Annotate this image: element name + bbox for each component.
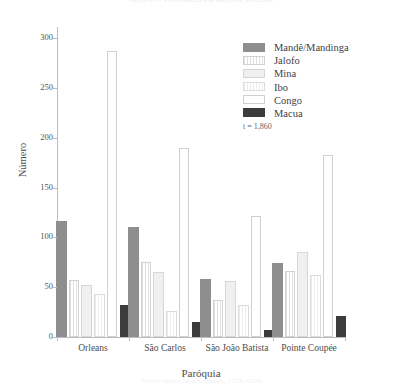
y-axis-tick-labels: 050100150200250300 xyxy=(9,27,53,338)
legend-label: Congo xyxy=(274,94,302,107)
bar xyxy=(225,281,236,337)
cut-off-title: Gráfico — Procedência dos escravos afric… xyxy=(0,0,402,5)
y-tick-mark xyxy=(53,287,57,288)
bar xyxy=(128,227,139,337)
x-tick-mark xyxy=(345,337,346,341)
bar xyxy=(56,221,67,337)
legend-label: Macua xyxy=(274,107,303,120)
bar xyxy=(141,262,152,337)
legend-item: Mandê/Mandinga xyxy=(243,41,399,54)
legend-swatch-icon xyxy=(243,108,265,117)
bar xyxy=(166,311,177,337)
x-tick-label: Orleans xyxy=(78,343,108,353)
bar xyxy=(153,272,164,337)
x-axis-tick-labels: OrleansSão CarlosSão João BatistaPointe … xyxy=(57,343,345,361)
legend-swatch-icon xyxy=(243,82,265,91)
x-tick-label: Pointe Coupée xyxy=(281,343,337,353)
bar xyxy=(272,263,283,337)
bar xyxy=(200,279,211,337)
bar xyxy=(213,300,224,337)
x-tick-label: São Carlos xyxy=(144,343,185,353)
bar xyxy=(297,252,308,337)
legend-item: Mina xyxy=(243,67,399,80)
bar xyxy=(310,275,321,337)
bar xyxy=(323,155,334,337)
bar xyxy=(69,280,80,337)
total-count-annotation: t = 1,860 xyxy=(243,122,272,131)
y-tick-mark xyxy=(53,138,57,139)
legend-label: Mandê/Mandinga xyxy=(274,41,349,54)
legend-swatch-icon xyxy=(243,95,265,104)
y-tick-label: 100 xyxy=(9,232,53,241)
y-axis-title: Número xyxy=(17,143,28,177)
x-tick-mark xyxy=(273,337,274,341)
bar xyxy=(81,285,92,337)
legend-swatch-icon xyxy=(243,69,265,78)
legend-swatch-icon xyxy=(243,43,265,52)
y-tick-mark xyxy=(53,188,57,189)
y-tick-label: 50 xyxy=(9,282,53,291)
legend-item: Congo xyxy=(243,94,399,107)
bar xyxy=(285,271,296,337)
y-tick-mark xyxy=(53,88,57,89)
y-tick-label: 250 xyxy=(9,83,53,92)
bar xyxy=(179,148,190,337)
legend-item: Macua xyxy=(243,107,399,120)
legend-label: Jalofo xyxy=(274,54,300,67)
bar xyxy=(336,316,347,337)
bar xyxy=(107,51,118,337)
y-tick-label: 150 xyxy=(9,183,53,192)
legend: Mandê/MandingaJalofoMinaIboCongoMacuat =… xyxy=(243,41,399,120)
legend-swatch-icon xyxy=(243,56,265,65)
y-tick-label: 0 xyxy=(9,332,53,341)
y-tick-mark xyxy=(53,38,57,39)
x-tick-mark xyxy=(129,337,130,341)
cut-off-footer: Fonte: registros paroquiais, 1718-1820 xyxy=(0,377,402,386)
bar xyxy=(251,216,262,337)
legend-item: Jalofo xyxy=(243,54,399,67)
legend-label: Mina xyxy=(274,67,296,80)
legend-label: Ibo xyxy=(274,81,288,94)
x-tick-mark xyxy=(201,337,202,341)
legend-item: Ibo xyxy=(243,81,399,94)
bar xyxy=(94,294,105,337)
x-tick-label: São João Batista xyxy=(206,343,269,353)
bar-chart-figure: Gráfico — Procedência dos escravos afric… xyxy=(0,0,402,386)
y-tick-label: 200 xyxy=(9,133,53,142)
y-tick-label: 300 xyxy=(9,33,53,42)
x-tick-mark xyxy=(57,337,58,341)
bar xyxy=(238,305,249,337)
y-tick-mark xyxy=(53,237,57,238)
